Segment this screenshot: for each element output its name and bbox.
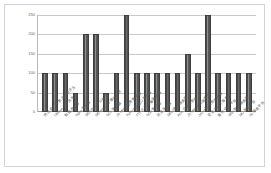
x-label-slot: Acm 应用服务器 (172, 113, 182, 168)
y-axis-tick-label: 250 (17, 13, 35, 17)
bar-slot (81, 15, 91, 112)
x-label-slot: MS Office 办公软件 (80, 113, 90, 168)
bar-slot (234, 15, 244, 112)
x-label-slot: FTP 文件传输服务器 (131, 113, 141, 168)
x-label-slot: MNN 数据服务器 (223, 113, 233, 168)
bar-slot (40, 15, 50, 112)
x-label-slot: Ultimus 工作流平台 (49, 113, 59, 168)
y-axis-tick-label: 0 (17, 110, 35, 114)
x-label-slot: Pythonrpc 接口服务器 (121, 113, 131, 168)
chart-frame: 050100150200250 供应商、研发方、测评方Ultimus 工作流平台… (4, 4, 265, 167)
x-label-slot: 消息服务器 (152, 113, 162, 168)
x-label-slot: Jmcrd 数据库服务器 (193, 113, 203, 168)
x-label-slot: NL 服务平台 (244, 113, 254, 168)
x-label-slot: MU 服务平台 (233, 113, 243, 168)
x-label-slot: 备份 中心平台 (213, 113, 223, 168)
y-axis-tick-label: 200 (17, 32, 35, 36)
bar-slot (162, 15, 172, 112)
y-axis: 050100150200250 (15, 15, 35, 112)
x-label-slot: NCV 服务器 (100, 113, 110, 168)
y-axis-tick-label: 150 (17, 52, 35, 56)
x-label-slot: 供应商、研发方、测评方 (39, 113, 49, 168)
bar (124, 15, 130, 112)
y-axis-tick-label: 50 (17, 90, 35, 94)
bar-slot (122, 15, 132, 112)
x-label-slot: JN Mab 信息服务器 (182, 113, 192, 168)
bar-chart: 050100150200250 供应商、研发方、测评方Ultimus 工作流平台… (5, 5, 266, 168)
x-label-slot: 安全中间件服务器 (203, 113, 213, 168)
x-label-slot: MS Windows 操作系统 (90, 113, 100, 168)
x-label-slot: 数据库平台 (59, 113, 69, 168)
y-axis-tick-label: 100 (17, 71, 35, 75)
x-axis-labels: 供应商、研发方、测评方Ultimus 工作流平台数据库平台Nginx 服务器MS… (37, 113, 256, 168)
bar-slot (172, 15, 182, 112)
x-label-slot: Nginx 服务器 (70, 113, 80, 168)
x-label-slot: NCU 客户端 (141, 113, 151, 168)
x-label-slot: JN MnnP 应用服务器 (111, 113, 121, 168)
x-label-slot: MRU 通讯服务器 (162, 113, 172, 168)
bar (42, 73, 48, 112)
